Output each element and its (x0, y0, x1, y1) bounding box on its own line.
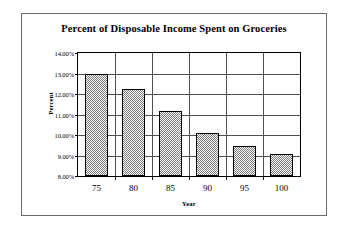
y-axis-tick-label: 14.00% (55, 50, 74, 57)
y-axis-tick-mark (75, 115, 78, 116)
x-axis-tick-label: 90 (203, 183, 212, 193)
bar (122, 89, 145, 176)
x-axis-tick-mark (263, 176, 264, 180)
bar (196, 133, 219, 176)
y-axis-tick-label: 12.00% (55, 91, 74, 98)
x-axis-tick-label: 85 (166, 183, 175, 193)
x-axis-tick-label: 75 (92, 183, 101, 193)
x-axis-tick-mark (189, 176, 190, 180)
bar (159, 111, 182, 176)
chart-figure: Percent of Disposable Income Spent on Gr… (21, 13, 327, 216)
y-axis-tick-label: 9.00% (58, 152, 74, 159)
x-axis-tick-label: 100 (275, 183, 289, 193)
y-axis-tick-mark (75, 156, 78, 157)
y-axis-tick-label: 11.00% (55, 111, 74, 118)
x-axis-title: Year (77, 200, 301, 207)
y-axis-title: Percent (47, 92, 54, 115)
y-axis-tick-label: 13.00% (55, 70, 74, 77)
bar (270, 154, 293, 176)
x-axis-tick-mark (226, 176, 227, 180)
x-axis-tick-mark (152, 176, 153, 180)
y-axis-tick-mark (75, 94, 78, 95)
x-axis-tick-label: 95 (240, 183, 249, 193)
y-axis-tick-label: 10.00% (55, 132, 74, 139)
y-axis-tick-mark (75, 135, 78, 136)
plot-area: 8.00%9.00%10.00%11.00%12.00%13.00%14.00%… (77, 52, 301, 177)
y-axis-tick-label: 8.00% (58, 173, 74, 180)
bars-layer (78, 53, 300, 176)
y-axis-tick-mark (75, 176, 78, 177)
y-axis-tick-mark (75, 74, 78, 75)
x-axis-tick-mark (115, 176, 116, 180)
bar (85, 74, 108, 177)
x-axis-tick-label: 80 (129, 183, 138, 193)
chart-title: Percent of Disposable Income Spent on Gr… (22, 23, 326, 34)
y-axis-tick-mark (75, 53, 78, 54)
bar (233, 146, 256, 176)
